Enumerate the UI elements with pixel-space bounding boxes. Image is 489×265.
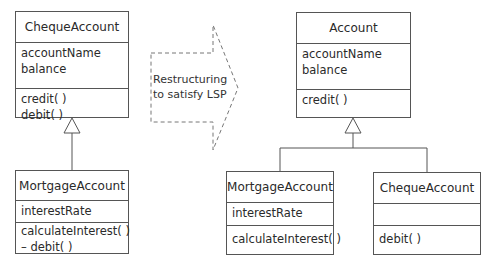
attributes-compartment: accountName balance xyxy=(297,43,410,89)
class-cheque-account: ChequeAccount debit( ) xyxy=(373,172,481,255)
attribute: accountName xyxy=(21,45,123,61)
operations-compartment: credit( ) debit( ) xyxy=(16,88,128,117)
attributes-compartment: interestRate xyxy=(227,202,333,225)
attributes-compartment: accountName balance xyxy=(16,42,128,88)
operation: debit( ) xyxy=(379,231,475,247)
attribute: accountName xyxy=(302,46,405,62)
operation: debit( ) xyxy=(21,107,123,123)
operation: credit( ) xyxy=(302,92,405,108)
operations-compartment: debit( ) xyxy=(374,225,480,254)
right-generalization-arrow xyxy=(280,118,427,172)
attribute: interestRate xyxy=(232,205,328,221)
class-name: MortgageAccount xyxy=(227,172,333,202)
label-line: to satisfy LSP xyxy=(153,87,213,102)
class-cheque-account-original: ChequeAccount accountName balance credit… xyxy=(15,11,129,118)
operation: calculateInterest( ) xyxy=(21,223,123,239)
operations-compartment: credit( ) xyxy=(297,89,410,117)
class-name: ChequeAccount xyxy=(374,173,480,203)
label-line: Restructuring xyxy=(153,72,213,87)
class-mortgage-account-original: MortgageAccount interestRate calculateIn… xyxy=(15,170,129,254)
operations-compartment: calculateInterest( ) – debit( ) xyxy=(16,222,128,253)
class-mortgage-account: MortgageAccount interestRate calculateIn… xyxy=(226,171,334,255)
restructuring-label: Restructuring to satisfy LSP xyxy=(153,72,213,102)
class-account: Account accountName balance credit( ) xyxy=(296,12,411,118)
class-name: Account xyxy=(297,13,410,43)
operations-compartment: calculateInterest( ) xyxy=(227,225,333,254)
operation: – debit( ) xyxy=(21,239,123,255)
left-generalization-arrow xyxy=(64,118,80,170)
attributes-compartment xyxy=(374,203,480,225)
operation: calculateInterest( ) xyxy=(232,231,328,247)
attribute: interestRate xyxy=(21,203,123,219)
class-name: ChequeAccount xyxy=(16,12,128,42)
attribute: balance xyxy=(21,61,123,77)
attributes-compartment: interestRate xyxy=(16,200,128,222)
operation: credit( ) xyxy=(21,91,123,107)
attribute: balance xyxy=(302,62,405,78)
class-name: MortgageAccount xyxy=(16,171,128,200)
